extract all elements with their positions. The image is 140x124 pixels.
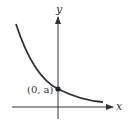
y-axis-label: y bbox=[55, 3, 63, 16]
x-axis-label: x bbox=[116, 100, 123, 113]
exponential-graph: y x (0, a) bbox=[0, 0, 140, 124]
point-label: (0, a) bbox=[27, 84, 54, 95]
y-intercept-point bbox=[55, 86, 60, 91]
